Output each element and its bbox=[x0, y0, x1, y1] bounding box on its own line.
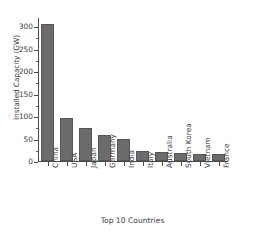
y-tick-mark bbox=[34, 95, 38, 96]
y-tick-label: 50 bbox=[24, 135, 33, 145]
x-tick-label: France bbox=[222, 143, 231, 168]
x-tick-label: Vietnam bbox=[203, 137, 212, 168]
x-tick-mark bbox=[86, 162, 87, 166]
y-tick-minor-mark bbox=[36, 106, 38, 107]
y-tick-minor-mark bbox=[36, 151, 38, 152]
plot-area: 050100150200250300 ChinaUSAJapanGermanyI… bbox=[38, 18, 228, 162]
y-tick-minor-mark bbox=[36, 61, 38, 62]
x-tick-label: Japan bbox=[89, 147, 98, 168]
x-axis-title: Top 10 Countries bbox=[0, 216, 265, 225]
y-tick-mark bbox=[34, 72, 38, 73]
x-tick-mark bbox=[48, 162, 49, 166]
y-tick-minor-mark bbox=[36, 38, 38, 39]
y-tick-label: 300 bbox=[19, 22, 33, 32]
y-tick-mark bbox=[34, 140, 38, 141]
x-tick-label: China bbox=[51, 147, 60, 168]
y-tick-minor-mark bbox=[36, 128, 38, 129]
x-tick-label: Australia bbox=[165, 135, 174, 168]
y-axis-spine bbox=[38, 18, 39, 162]
y-tick-mark bbox=[34, 117, 38, 118]
y-tick-label: 200 bbox=[19, 67, 33, 77]
y-tick-mark bbox=[34, 162, 38, 163]
y-tick-mark bbox=[34, 27, 38, 28]
y-tick-minor-mark bbox=[36, 83, 38, 84]
x-tick-mark bbox=[162, 162, 163, 166]
x-tick-label: Germany bbox=[108, 134, 117, 168]
x-tick-mark bbox=[200, 162, 201, 166]
x-tick-label: India bbox=[127, 150, 136, 168]
x-tick-mark bbox=[67, 162, 68, 166]
x-tick-mark bbox=[219, 162, 220, 166]
x-tick-label: USA bbox=[70, 153, 79, 168]
x-tick-label: South Korea bbox=[184, 123, 193, 168]
y-tick-label: 150 bbox=[19, 90, 33, 100]
bar-chart-figure: Installed Capacity (GW) 0501001502002503… bbox=[0, 0, 265, 238]
x-tick-mark bbox=[143, 162, 144, 166]
y-tick-label: 100 bbox=[19, 112, 33, 122]
x-tick-mark bbox=[124, 162, 125, 166]
y-tick-mark bbox=[34, 50, 38, 51]
x-tick-mark bbox=[181, 162, 182, 166]
bar bbox=[41, 24, 55, 161]
y-tick-label: 250 bbox=[19, 45, 33, 55]
y-tick-label: 0 bbox=[28, 157, 33, 167]
x-tick-mark bbox=[105, 162, 106, 166]
x-tick-label: Italy bbox=[146, 152, 155, 168]
